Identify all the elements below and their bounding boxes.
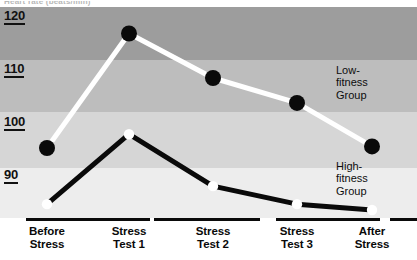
- y-tick-110: 110: [4, 61, 24, 78]
- data-point: [42, 199, 52, 209]
- x-axis-segment: [390, 218, 417, 221]
- y-tick-100: 100: [4, 114, 25, 131]
- x-axis: BeforeStressStressTest 1StressTest 2Stre…: [0, 218, 417, 260]
- x-axis-segment: [276, 218, 380, 221]
- data-point: [121, 26, 137, 42]
- x-axis-label-3: StressTest 2: [168, 225, 258, 250]
- x-axis-label-5: AfterStress: [327, 225, 417, 250]
- legend-label-low-fitness: Low-fitnessGroup: [336, 64, 368, 101]
- y-tick-90: 90: [4, 167, 18, 184]
- x-axis-segment: [26, 218, 150, 221]
- chart-root: Heart rate (beats/min) Low-fitnessGroup …: [0, 0, 417, 260]
- data-point: [124, 129, 134, 139]
- data-point: [39, 140, 55, 156]
- x-axis-segment: [154, 218, 260, 221]
- chart-top-caption: Heart rate (beats/min): [4, 0, 91, 6]
- data-point: [364, 138, 380, 154]
- line-high-fitness: [47, 134, 372, 210]
- x-axis-label-2: StressTest 1: [84, 225, 174, 250]
- data-point: [289, 95, 305, 111]
- markers-high-fitness: [42, 129, 377, 215]
- data-point: [292, 199, 302, 209]
- x-axis-label-1: BeforeStress: [2, 225, 92, 250]
- data-point: [367, 205, 377, 215]
- legend-label-high-fitness: High-fitnessGroup: [336, 160, 368, 197]
- data-point: [205, 70, 221, 86]
- y-tick-120: 120: [4, 8, 25, 25]
- line-low-fitness: [47, 34, 372, 148]
- plot-area: Low-fitnessGroup High-fitnessGroup: [0, 7, 417, 218]
- data-point: [208, 181, 218, 191]
